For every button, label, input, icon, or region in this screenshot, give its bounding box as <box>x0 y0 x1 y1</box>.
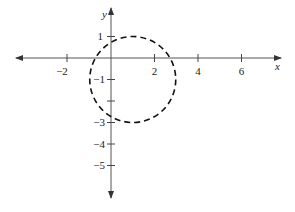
y-axis-label: y <box>101 8 107 20</box>
coordinate-plane: −2 2 4 6 x 1 −1 −3 −4 −5 y <box>0 0 295 212</box>
y-tick-label-neg3: −3 <box>93 116 105 128</box>
x-axis-label: x <box>274 60 280 72</box>
x-axis: −2 2 4 6 x <box>16 54 281 77</box>
y-tick-label-1: 1 <box>98 30 104 42</box>
x-tick-label-4: 4 <box>195 65 201 77</box>
y-tick-label-neg4: −4 <box>93 138 105 150</box>
y-tick-label-neg5: −5 <box>93 159 105 171</box>
y-tick-label-neg1: −1 <box>93 73 105 85</box>
x-tick-label-2: 2 <box>152 65 158 77</box>
x-tick-label-neg2: −2 <box>56 65 68 77</box>
x-tick-label-6: 6 <box>239 65 245 77</box>
